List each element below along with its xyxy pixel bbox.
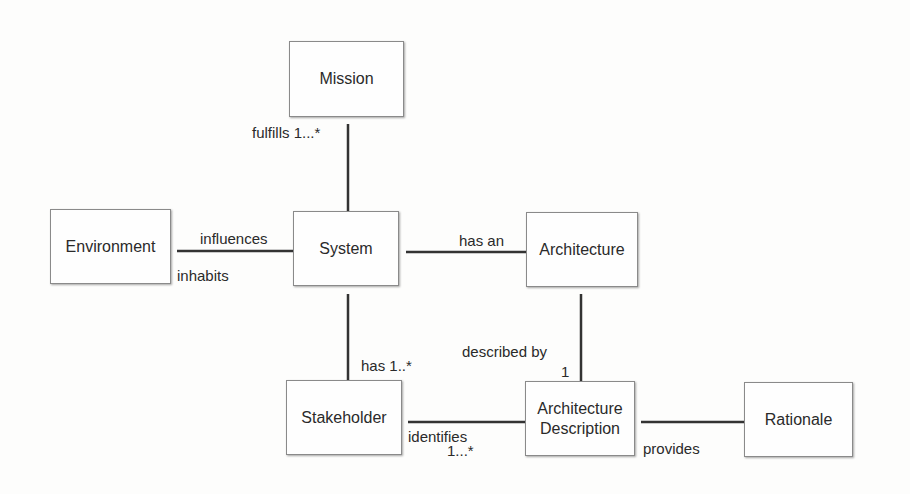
node-label: Rationale <box>765 410 833 430</box>
node-environment[interactable]: Environment <box>50 209 171 284</box>
node-architecture-description[interactable]: Architecture Description <box>525 381 635 456</box>
node-architecture[interactable]: Architecture <box>526 212 638 287</box>
node-label: Environment <box>66 237 156 257</box>
node-stakeholder[interactable]: Stakeholder <box>286 380 402 455</box>
node-system[interactable]: System <box>293 211 399 286</box>
node-rationale[interactable]: Rationale <box>744 382 853 457</box>
node-label: Architecture <box>539 240 624 260</box>
edge-label-has: has 1..* <box>361 357 412 374</box>
node-label-line1: Architecture <box>537 399 622 419</box>
node-label: Stakeholder <box>301 408 386 428</box>
node-label: System <box>319 239 372 259</box>
edge-label-has-an: has an <box>459 232 504 249</box>
edge-label-inhabits: inhabits <box>177 267 229 284</box>
node-label: Mission <box>319 69 373 89</box>
edge-label-influences: influences <box>200 230 268 247</box>
edge-multiplicity-identifies: 1...* <box>447 442 474 459</box>
edge-label-provides: provides <box>643 440 700 457</box>
edge-label-fulfills: fulfills 1...* <box>252 124 320 141</box>
node-mission[interactable]: Mission <box>289 41 404 117</box>
edge-label-described-by: described by <box>462 343 547 360</box>
node-label-line2: Description <box>540 419 620 439</box>
edge-multiplicity-described-by: 1 <box>561 363 569 380</box>
